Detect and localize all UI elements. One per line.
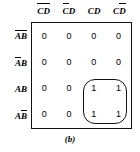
table-row: 0 0 0 0 (32, 49, 131, 75)
kmap-cell: 0 (32, 76, 57, 102)
table-row: 0 0 1 1 (32, 102, 131, 128)
kmap-cell: 1 (106, 102, 131, 128)
row-header-a-bar-b: AB (1, 49, 30, 76)
kmap-cell: 0 (57, 76, 82, 102)
kmap-cell: 1 (82, 76, 107, 102)
column-header-bar-d-0: D (43, 3, 50, 18)
column-header-bar-d-3: D (119, 3, 126, 18)
column-header-c-bar-d-bar: CD (31, 3, 56, 20)
column-header-row: CD CD CD CD (31, 3, 132, 20)
figure-caption: (b) (0, 134, 140, 144)
column-header-c-d: CD (82, 3, 107, 20)
kmap-cell: 1 (106, 76, 131, 102)
row-label-column: AB AB AB AB (1, 22, 30, 129)
row-header-bar-b-2: B (21, 83, 27, 94)
table-row: 0 0 1 1 (32, 76, 131, 102)
kmap-cell: 0 (106, 49, 131, 75)
kmap-cell: 0 (82, 49, 107, 75)
kmap-cell: 0 (57, 23, 82, 49)
kmap-cell: 0 (57, 49, 82, 75)
row-header-bar-b-3: B (21, 110, 27, 121)
column-header-bar-d-1: D (69, 3, 76, 18)
column-header-c-d-bar: CD (107, 3, 132, 20)
kmap-cell: 0 (106, 23, 131, 49)
kmap-cell: 0 (32, 102, 57, 128)
kmap-cell: 1 (82, 102, 107, 128)
column-header-bar-d-2: D (94, 3, 101, 18)
row-header-a-b-bar: AB (1, 102, 30, 129)
row-header-bar-b-1: B (21, 57, 27, 68)
column-header-c-bar-d: CD (56, 3, 81, 20)
karnaugh-map-figure: CD CD CD CD AB AB AB AB 0 0 0 0 (0, 0, 140, 152)
kmap-cell: 0 (57, 102, 82, 128)
row-header-bar-b-0: B (21, 30, 27, 41)
table-row: 0 0 0 0 (32, 23, 131, 49)
kmap-cell: 0 (32, 49, 57, 75)
kmap-cell: 0 (82, 23, 107, 49)
kmap-cell: 0 (32, 23, 57, 49)
row-header-a-b: AB (1, 76, 30, 103)
row-header-a-bar-b-bar: AB (1, 22, 30, 49)
karnaugh-map-grid: 0 0 0 0 0 0 0 0 0 0 1 1 0 0 1 1 (31, 22, 132, 129)
